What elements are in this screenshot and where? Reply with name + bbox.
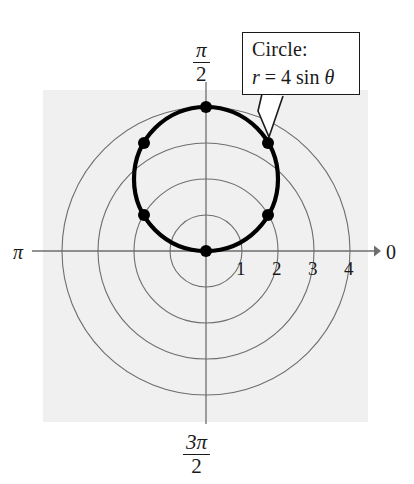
axis-label-3pi-over-2-denominator: 2	[183, 454, 210, 477]
theta-symbol: θ	[324, 66, 334, 88]
axis-label-pi-over-2-numerator: π	[193, 40, 210, 62]
axis-arrow-right	[374, 246, 381, 257]
axis-label-3pi-over-2-numerator: 3π	[183, 432, 210, 454]
callout-variable-r: r	[252, 66, 260, 88]
callout-box: Circle: r = 4 sin θ	[242, 32, 360, 95]
axis-label-pi-over-2: π 2	[193, 40, 210, 85]
marked-point-theta-150	[138, 209, 150, 221]
radial-tick-label-1: 1	[236, 258, 246, 280]
marked-point-theta-60	[262, 137, 274, 149]
axis-label-pi-over-2-denominator: 2	[193, 62, 210, 85]
callout-equation-body: = 4 sin	[265, 66, 320, 88]
marked-point-theta-90	[200, 101, 212, 113]
marked-point-theta-30	[262, 209, 274, 221]
radial-tick-label-2: 2	[272, 258, 282, 280]
radial-tick-label-3: 3	[308, 258, 318, 280]
axis-label-zero: 0	[386, 241, 396, 264]
marked-point-theta-120	[138, 137, 150, 149]
axis-label-pi: π	[13, 241, 23, 264]
callout-line-2: r = 4 sin θ	[252, 66, 359, 89]
radial-tick-label-4: 4	[344, 258, 354, 280]
marked-point-theta-0	[200, 245, 212, 257]
axis-label-3pi-over-2: 3π 2	[183, 432, 210, 477]
callout-line-1: Circle:	[252, 38, 359, 61]
